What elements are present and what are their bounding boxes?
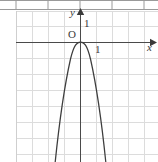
origin-label: O: [68, 29, 76, 40]
x-tick-label-1: 1: [95, 44, 101, 55]
parabola-figure: y x 1 1 O: [0, 0, 158, 162]
y-tick-label-1: 1: [84, 18, 90, 29]
plot-background: [16, 11, 158, 162]
plot-canvas: [0, 0, 158, 162]
y-axis-label: y: [70, 7, 75, 18]
top-grid-strip: [0, 0, 158, 11]
x-axis-label: x: [147, 42, 152, 53]
